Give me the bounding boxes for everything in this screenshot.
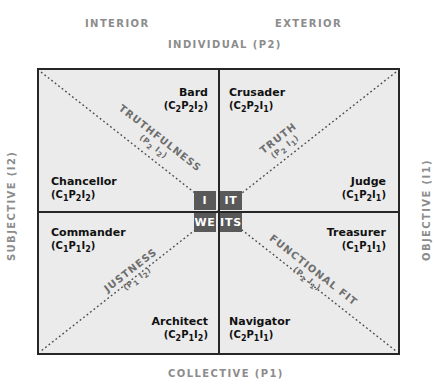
quadrant-label-treasurer-code: (C1P1I1) xyxy=(327,239,386,256)
quadrant-label-navigator-code: (C2P1I1) xyxy=(229,328,290,345)
quadrant-label-treasurer-name: Treasurer xyxy=(327,226,386,239)
quadrant-label-architect-name: Architect xyxy=(151,315,208,328)
center-cell-its: ITS xyxy=(220,213,242,232)
center-cell-i: I xyxy=(194,191,216,210)
diagonal-label-truth: TRUTH (P2 I1) xyxy=(258,120,308,167)
quadrant-label-treasurer: Treasurer (C1P1I1) xyxy=(327,226,386,256)
quadrant-label-crusader-code: (C2P2I1) xyxy=(229,99,285,116)
quadrant-label-chancellor-code: (C1P2I2) xyxy=(51,188,117,205)
axis-label-collective: COLLECTIVE (P1) xyxy=(168,368,284,379)
quadrant-label-navigator: Navigator (C2P1I1) xyxy=(229,315,290,345)
center-cell-we: WE xyxy=(194,213,216,232)
quadrant-label-bard: Bard (C2P2I2) xyxy=(164,86,208,116)
quadrant-label-bard-code: (C2P2I2) xyxy=(164,99,208,116)
quadrant-frame: TRUTHFULNESS (P2 I2) TRUTH (P2 I1) JUSTN… xyxy=(37,68,400,355)
horizontal-divider xyxy=(39,211,398,213)
center-cell-it: IT xyxy=(220,191,242,210)
diagonal-label-truthfulness-code: (P2 I2) xyxy=(108,111,197,185)
quadrant-label-chancellor-name: Chancellor xyxy=(51,175,117,188)
quadrant-label-crusader: Crusader (C2P2I1) xyxy=(229,86,285,116)
axis-label-individual: INDIVIDUAL (P2) xyxy=(168,39,282,50)
quadrant-label-commander-name: Commander xyxy=(51,226,126,239)
quadrant-label-judge-name: Judge xyxy=(351,175,386,188)
quadrant-label-judge: Judge (C1P2I1) xyxy=(342,175,386,205)
quadrant-label-architect: Architect (C2P1I2) xyxy=(151,315,208,345)
quadrant-label-judge-code: (C1P2I1) xyxy=(342,188,386,205)
quadrant-label-chancellor: Chancellor (C1P2I2) xyxy=(51,175,117,205)
quadrant-label-architect-code: (C2P1I2) xyxy=(151,328,208,345)
quadrant-label-navigator-name: Navigator xyxy=(229,315,290,328)
quadrant-label-commander: Commander (C1P1I2) xyxy=(51,226,126,256)
quadrant-diagram: INTERIOR EXTERIOR INDIVIDUAL (P2) COLLEC… xyxy=(0,0,437,390)
axis-label-interior: INTERIOR xyxy=(85,18,150,29)
axis-label-exterior: EXTERIOR xyxy=(275,18,342,29)
axis-label-subjective: SUBJECTIVE (I2) xyxy=(6,161,17,261)
quadrant-label-bard-name: Bard xyxy=(179,86,208,99)
quadrant-label-commander-code: (C1P1I2) xyxy=(51,239,126,256)
quadrant-label-crusader-name: Crusader xyxy=(229,86,285,99)
axis-label-objective: OBJECTIVE (I1) xyxy=(421,161,432,261)
